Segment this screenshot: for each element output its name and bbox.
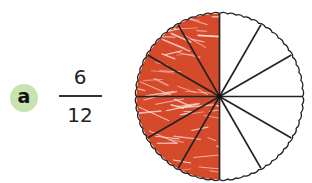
sector-divider-line (220, 97, 262, 169)
sector-divider-line (220, 97, 292, 139)
center-dot (217, 94, 222, 99)
sector-divider-line (220, 25, 262, 97)
fraction-pie-diagram (0, 0, 312, 183)
sector-divider-line (220, 55, 292, 97)
